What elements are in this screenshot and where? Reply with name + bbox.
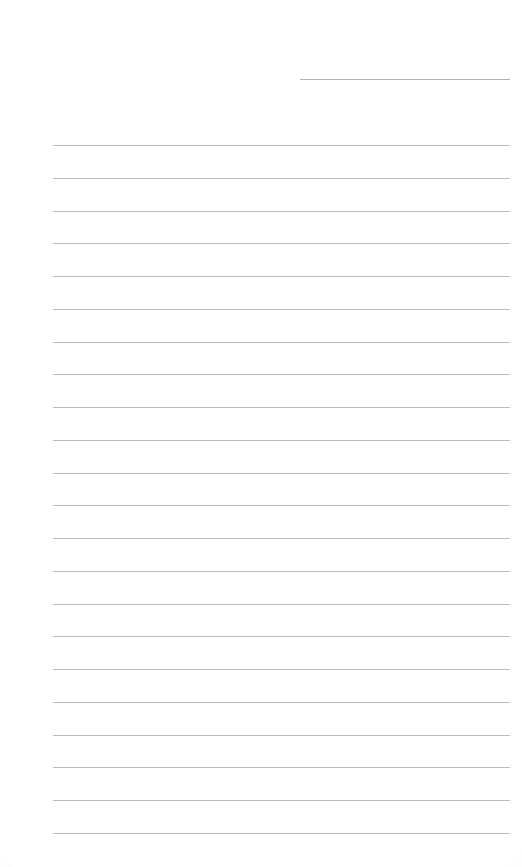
- ruled-line: [53, 505, 510, 506]
- ruled-line: [53, 669, 510, 670]
- ruled-line: [53, 473, 510, 474]
- ruled-line: [53, 145, 510, 146]
- ruled-line: [53, 702, 510, 703]
- ruled-line: [53, 211, 510, 212]
- ruled-line: [53, 178, 510, 179]
- ruled-line: [53, 833, 510, 834]
- ruled-line: [53, 800, 510, 801]
- date-field-line: [300, 79, 510, 80]
- ruled-line: [53, 571, 510, 572]
- ruled-line: [53, 538, 510, 539]
- ruled-line: [53, 440, 510, 441]
- ruled-line: [53, 309, 510, 310]
- ruled-line: [53, 276, 510, 277]
- ruled-line: [53, 767, 510, 768]
- ruled-line: [53, 342, 510, 343]
- notepaper-page: [0, 0, 522, 867]
- ruled-line: [53, 604, 510, 605]
- ruled-line: [53, 735, 510, 736]
- ruled-line: [53, 374, 510, 375]
- ruled-line: [53, 407, 510, 408]
- ruled-line: [53, 243, 510, 244]
- ruled-line: [53, 636, 510, 637]
